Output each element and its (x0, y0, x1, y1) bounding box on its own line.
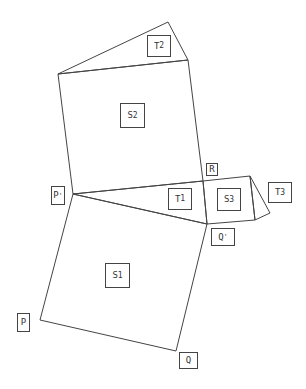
label-t3: T3 (268, 182, 292, 203)
label-text: S (127, 111, 132, 120)
label-text: S (112, 271, 117, 280)
label-text: R (209, 165, 214, 174)
label-p: P (17, 313, 30, 332)
label-t1: T1 (168, 188, 192, 210)
pythagorean-squares-diagram (0, 0, 306, 389)
label-r: R (206, 163, 218, 176)
label-text: P (53, 191, 58, 200)
label-text: Q (218, 233, 223, 242)
label-p-prime: P' (51, 186, 65, 205)
label-q-prime: Q' (211, 228, 235, 246)
shape-t3-triangle (250, 176, 270, 220)
label-text: Q (186, 356, 191, 365)
label-s3: S3 (217, 188, 241, 211)
label-s1: S1 (105, 263, 130, 288)
label-q: Q (179, 352, 198, 369)
label-text: P (21, 318, 26, 327)
label-s2: S2 (120, 103, 145, 128)
label-t2: T2 (147, 35, 171, 57)
